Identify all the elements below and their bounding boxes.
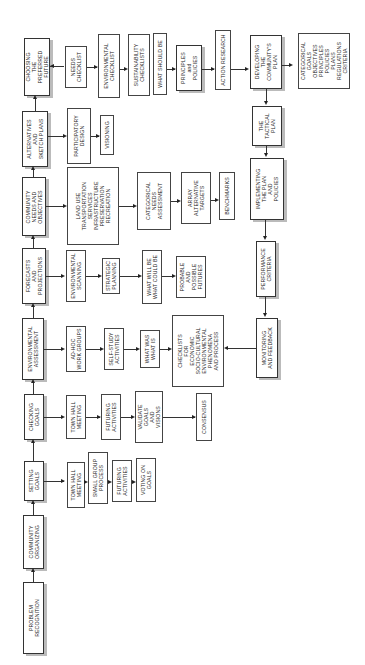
label: FUTURING ACTIVITIES: [116, 466, 128, 495]
arrow-right-icon: [245, 67, 249, 71]
arrow-right-icon: [84, 480, 88, 484]
label: SMALL GROUP PROCESS: [92, 459, 104, 497]
label: VOTING ON GOALS: [140, 465, 152, 495]
label-environmental-assessment: ENVIRONMENTAL ASSESSMENT: [27, 326, 39, 372]
connector: [44, 349, 62, 350]
arrow-up-icon: [31, 568, 35, 572]
arrow-up-icon: [33, 95, 37, 99]
label: SUSTAINABILITY CHECKLISTS: [133, 44, 145, 87]
connector: [46, 206, 64, 207]
box-checklists: CHECKLISTS FOR ECONOMIC SOCIO-CULTURAL E…: [172, 315, 224, 387]
box-environmental-assessment: ENVIRONMENTAL ASSESSMENT: [22, 318, 44, 380]
arrow-up-icon: [31, 439, 35, 443]
box-needs-checklist: NEEDS CHECKLIST: [65, 46, 87, 88]
label: WHAT SHOULD BE: [157, 40, 163, 88]
box-setting-goals: SETTING GOALS: [24, 461, 44, 501]
label: CONSENSUS: [201, 400, 207, 434]
box-choosing-future: CHOOSING THE PREFERRED FUTURE: [24, 38, 50, 96]
box-environmental-scanning: ENVIRONMENTAL SCANNING: [66, 250, 86, 302]
label-choosing-future: CHOOSING THE PREFERRED FUTURE: [25, 51, 49, 84]
label: WHAT WILL BE WHAT COULD BE: [146, 255, 158, 299]
connector: [48, 136, 64, 137]
box-town-hall-meeting-1: TOWN HALL MEETING: [67, 462, 85, 508]
label-forecasts: FORECASTS AND PROJECTIONS: [25, 257, 43, 295]
box-what-will-be: WHAT WILL BE WHAT COULD BE: [142, 250, 162, 304]
arrow-left-icon: [50, 64, 54, 68]
label: BENCHMARKS: [224, 177, 230, 215]
box-town-hall-meeting-2: TOWN HALL MEETING: [66, 395, 86, 439]
label: NEEDS CHECKLIST: [70, 52, 82, 82]
box-what-should-be: WHAT SHOULD BE: [153, 33, 167, 95]
label: ARRAY ALTERNATIVE TARGETS: [187, 180, 205, 216]
box-checking-goals: CHECKING GOALS: [24, 394, 44, 440]
arrow-up-icon: [31, 303, 35, 307]
box-principles-policies: PRINCIPLES and POLICIES: [176, 45, 202, 91]
label: PROBABLE AND POSSIBLE FUTURES: [179, 263, 203, 292]
arrow-down-icon: [263, 236, 267, 240]
arrow-right-icon: [108, 480, 112, 484]
box-consensus: CONSENSUS: [196, 393, 212, 441]
connector: [33, 441, 34, 461]
box-categorical-goals: CATEGORICAL GOALS OBJECTIVES PRINCIPLES …: [298, 33, 350, 89]
label-setting-goals: SETTING GOALS: [28, 469, 40, 492]
box-benchmarks: BENCHMARKS: [219, 172, 235, 220]
box-validate-goals: VALIDATE GOALS AND VISIONS: [135, 391, 163, 443]
label: PARTICIPATORY DESIGN: [73, 115, 85, 157]
arrow-down-icon: [264, 101, 268, 105]
box-ad-hoc-work-groups: AD-HOC WORK GROUPS: [66, 326, 86, 372]
box-community-needs: COMMUNITY NEEDS AND OBJECTIVES: [22, 177, 46, 236]
label-alternatives: ALTERNATIVES AND SKETCH PLANS: [26, 119, 44, 160]
box-self-study: SELF-STUDY ACTIVITIES: [104, 328, 124, 370]
label: CATEGORICAL GOALS OBJECTIVES PRINCIPLES …: [300, 42, 348, 80]
connector: [226, 348, 256, 349]
connector: [46, 276, 62, 277]
connector: [35, 97, 36, 111]
box-alternatives: ALTERNATIVES AND SKETCH PLANS: [22, 111, 48, 167]
box-voting-on-goals: VOTING ON GOALS: [136, 458, 156, 502]
label: CATEGORICAL NEEDS ASSESSMENT: [145, 182, 163, 220]
arrow-right-icon: [132, 480, 136, 484]
arrow-down-icon: [263, 313, 267, 317]
connector: [44, 417, 62, 418]
arrow-right-icon: [61, 415, 65, 419]
label: PRINCIPLES and POLICIES: [180, 52, 198, 84]
box-what-was-what-is: WHAT WAS WHAT IS: [140, 330, 160, 368]
box-monitoring-feedback: MONITORING AND FEEDBACK: [256, 318, 278, 378]
box-tactical-plan: THE TACTICAL PLAN: [252, 106, 282, 146]
box-environmental-checklist: ENVIRONMENTAL CHECKLIST: [98, 34, 120, 98]
connector: [120, 276, 140, 277]
arrow-up-icon: [31, 500, 35, 504]
label: AD-HOC WORK GROUPS: [70, 328, 82, 369]
arrow-right-icon: [61, 274, 65, 278]
box-land-use: LAND USE TRANSPORTATION SERVICES INFRAST…: [67, 167, 119, 245]
box-problem-recognition: PROBLEM RECOGNITION: [23, 582, 44, 654]
box-futuring-activities-1: FUTURING ACTIVITIES: [112, 460, 132, 502]
box-visioning: VISIONING: [100, 115, 114, 155]
label-community-organizing: COMMUNITY ORGANIZING: [28, 525, 40, 559]
box-sustainability-checklists: SUSTAINABILITY CHECKLISTS: [128, 34, 150, 96]
label: CHECKLISTS FOR ECONOMIC SOCIO-CULTURAL E…: [177, 328, 219, 375]
label: STRATEGIC PLANNING: [105, 261, 117, 291]
label: ACTION RESEARCH: [220, 34, 226, 85]
arrow-up-icon: [31, 379, 35, 383]
label: LAND USE TRANSPORTATION SERVICES INFRAST…: [75, 182, 111, 231]
box-strategic-planning: STRATEGIC PLANNING: [102, 258, 120, 294]
box-participatory-design: PARTICIPATORY DESIGN: [67, 108, 91, 164]
arrow-up-icon: [31, 235, 35, 239]
label-community-needs: COMMUNITY NEEDS AND OBJECTIVES: [25, 190, 43, 223]
label: VISIONING: [104, 121, 110, 149]
arrow-right-icon: [289, 63, 293, 67]
label: PERFORMANCE CRITERIA: [260, 248, 272, 289]
box-performance-criteria: PERFORMANCE CRITERIA: [256, 241, 276, 297]
label: WHAT WAS WHAT IS: [144, 335, 156, 364]
label-checking-goals: CHECKING GOALS: [28, 403, 40, 431]
arrow-up-icon: [31, 166, 35, 170]
box-developing-plan: DEVELOPING THE COMMUNITY'S PLAN: [250, 35, 282, 89]
label: ENVIRONMENTAL SCANNING: [70, 253, 82, 299]
label: SELF-STUDY ACTIVITIES: [108, 332, 120, 365]
label: ENVIRONMENTAL CHECKLIST: [103, 43, 115, 89]
label: IMPLEMENTING THE PLAN AND POLICIES: [255, 169, 279, 210]
box-categorical-needs-assessment: CATEGORICAL NEEDS ASSESSMENT: [137, 172, 171, 230]
label: TOWN HALL MEETING: [70, 469, 82, 500]
box-action-research: ACTION RESEARCH: [215, 30, 231, 90]
